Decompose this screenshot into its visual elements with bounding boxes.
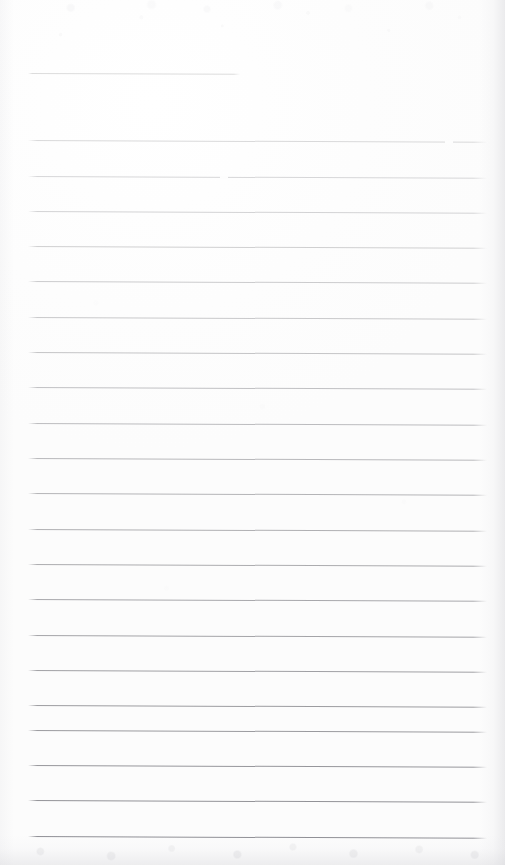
writing-area[interactable] <box>28 60 487 850</box>
scanned-page <box>0 0 505 865</box>
